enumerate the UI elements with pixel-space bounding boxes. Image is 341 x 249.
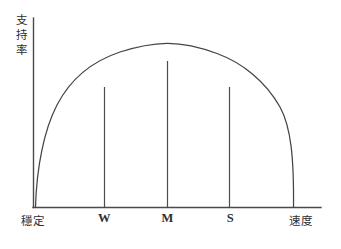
y-axis-label-char-2: 持 — [13, 28, 29, 43]
y-axis-label-char-1: 支 — [13, 13, 29, 28]
x-axis-label-right: 速度 — [289, 212, 313, 228]
y-axis-label-char-3: 率 — [13, 43, 29, 58]
support-rate-curve — [36, 43, 294, 207]
x-tick-label-m: M — [155, 211, 180, 226]
x-tick-label-w: W — [92, 211, 117, 226]
chart-figure: 支持率 W M S 穩定 速度 — [0, 0, 341, 249]
x-tick-label-s: S — [218, 211, 243, 226]
y-axis-label: 支持率 — [13, 13, 29, 57]
x-axis-label-left: 穩定 — [21, 212, 45, 228]
